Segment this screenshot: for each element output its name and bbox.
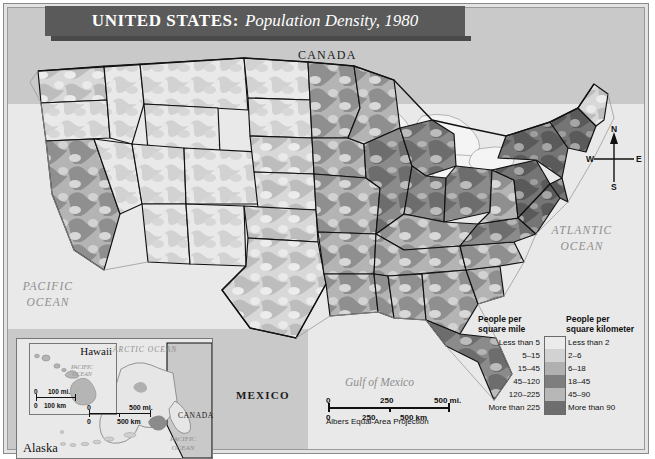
alaska-scale-bar: 0 500 mi. 0 500 km bbox=[87, 404, 179, 432]
state-south-dakota bbox=[248, 98, 312, 138]
legend-row: 5–152–6 bbox=[478, 349, 650, 362]
state-washington bbox=[38, 66, 107, 103]
state-north-dakota bbox=[244, 58, 310, 100]
legend-label-square-kilometer: 18–45 bbox=[568, 375, 650, 388]
map-legend: People per square mile People per square… bbox=[478, 314, 650, 419]
legend-label-square-kilometer: 6–18 bbox=[568, 362, 650, 375]
legend-row: More than 225More than 90 bbox=[478, 401, 650, 414]
legend-color-swatch bbox=[544, 349, 566, 362]
legend-label-square-mile: 15–45 bbox=[478, 362, 540, 375]
title-main: UNITED STATES: bbox=[92, 11, 239, 31]
map-inner-frame: CANADA MEXICO ATLANTIC OCEAN PACIFIC OCE… bbox=[7, 7, 645, 450]
map-title: UNITED STATES: Population Density, 1980 bbox=[45, 6, 465, 36]
compass-label-north: N bbox=[611, 124, 617, 134]
state-ohio bbox=[444, 166, 492, 222]
state-idaho bbox=[104, 64, 144, 144]
legend-header-km-line2: square kilometer bbox=[566, 324, 650, 334]
legend-header-square-mile: People per square mile bbox=[478, 314, 540, 334]
legend-row: 120–22545–90 bbox=[478, 388, 650, 401]
inset-alaska-title: Alaska bbox=[23, 441, 58, 456]
alaska-scale-km-0: 0 bbox=[87, 418, 91, 425]
legend-header-km-line1: People per bbox=[566, 314, 650, 324]
legend-label-square-mile: 45–120 bbox=[478, 375, 540, 388]
legend-color-swatch bbox=[544, 336, 566, 350]
state-north-carolina bbox=[460, 242, 524, 270]
title-subtitle: Population Density, 1980 bbox=[245, 11, 418, 31]
main-scale-mile-250: 250 bbox=[380, 396, 393, 405]
legend-color-swatch bbox=[544, 401, 566, 415]
legend-color-swatch bbox=[544, 388, 566, 401]
legend-label-square-kilometer: Less than 2 bbox=[568, 336, 650, 349]
legend-row: 15–456–18 bbox=[478, 362, 650, 375]
alaska-scale-km-500: 500 km bbox=[117, 418, 141, 425]
state-kansas bbox=[254, 172, 316, 210]
legend-header-square-kilometer: People per square kilometer bbox=[566, 314, 650, 334]
compass-label-west: W bbox=[586, 154, 594, 164]
hawaii-scale-bar: 0 100 mi. 0 100 km bbox=[34, 388, 92, 414]
legend-color-swatch bbox=[544, 375, 566, 388]
compass-rose: N E S W bbox=[586, 126, 642, 192]
state-oregon bbox=[41, 100, 110, 141]
hawaii-scale-km-100: 100 km bbox=[44, 402, 66, 409]
projection-caption: Albers Equal-Area Projection bbox=[326, 417, 429, 426]
population-density-map-figure: CANADA MEXICO ATLANTIC OCEAN PACIFIC OCE… bbox=[0, 0, 655, 459]
state-louisiana bbox=[324, 274, 378, 316]
legend-header-mile-line1: People per bbox=[478, 314, 540, 324]
state-oklahoma bbox=[244, 206, 318, 242]
legend-header-mile-line2: square mile bbox=[478, 324, 540, 334]
compass-label-south: S bbox=[611, 182, 617, 192]
legend-label-square-mile: More than 225 bbox=[478, 401, 540, 414]
legend-label-square-mile: Less than 5 bbox=[478, 336, 540, 349]
legend-row: Less than 5Less than 2 bbox=[478, 336, 650, 349]
state-colorado bbox=[184, 148, 260, 204]
legend-row: 45–12018–45 bbox=[478, 375, 650, 388]
title-banner-shadow bbox=[51, 36, 471, 41]
state-missouri bbox=[314, 174, 380, 234]
inset-alaska-hawaii: Hawaii PACIFIC OCEAN bbox=[16, 338, 213, 459]
legend-label-square-kilometer: 2–6 bbox=[568, 349, 650, 362]
state-arizona bbox=[142, 204, 190, 264]
state-iowa bbox=[312, 138, 366, 178]
title-banner: UNITED STATES: Population Density, 1980 bbox=[45, 6, 465, 36]
legend-label-square-mile: 5–15 bbox=[478, 349, 540, 362]
hawaii-scale-km-0: 0 bbox=[34, 402, 38, 409]
compass-label-east: E bbox=[636, 154, 642, 164]
legend-label-square-kilometer: More than 90 bbox=[568, 401, 650, 414]
state-montana bbox=[140, 58, 248, 110]
legend-color-swatch bbox=[544, 362, 566, 375]
state-utah bbox=[132, 144, 186, 204]
state-arkansas bbox=[318, 232, 376, 274]
state-alabama bbox=[388, 274, 426, 320]
hawaii-scale-mile-100: 100 mi. bbox=[48, 388, 70, 395]
state-new-mexico bbox=[186, 204, 246, 266]
legend-label-square-mile: 120–225 bbox=[478, 388, 540, 401]
legend-label-square-kilometer: 45–90 bbox=[568, 388, 650, 401]
state-nebraska bbox=[250, 136, 314, 174]
